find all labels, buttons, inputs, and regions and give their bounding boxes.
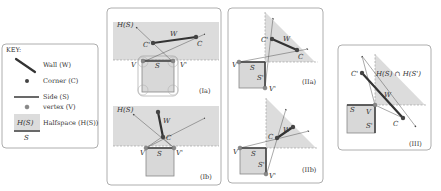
svg-text:S: S <box>251 150 256 158</box>
svg-text:S: S <box>24 134 29 142</box>
svg-text:W: W <box>384 91 392 99</box>
svg-text:C: C <box>197 40 203 48</box>
svg-text:V': V' <box>269 172 276 180</box>
svg-text:H(S) ∩ H(S'): H(S) ∩ H(S') <box>375 70 421 78</box>
tag-Ib: (Ib) <box>200 173 212 181</box>
key-title: KEY: <box>6 46 21 54</box>
svg-text:W: W <box>283 35 291 43</box>
svg-text:W: W <box>283 126 291 134</box>
key-label-side: Side (S) <box>43 93 70 101</box>
tag-III: (III) <box>409 140 422 148</box>
key-label-vertex: vertex (V) <box>42 103 76 111</box>
svg-text:C': C' <box>261 36 268 44</box>
svg-text:H(S): H(S) <box>116 106 134 114</box>
svg-text:W: W <box>170 30 178 38</box>
svg-text:V': V' <box>180 61 187 69</box>
svg-text:V': V' <box>269 85 276 93</box>
diagram: KEY: Wall (W) Corner (C) Side (S) vertex… <box>0 0 441 191</box>
key-legend: KEY: Wall (W) Corner (C) Side (S) vertex… <box>2 44 99 148</box>
svg-text:C: C <box>166 134 172 142</box>
svg-text:S': S' <box>366 122 373 130</box>
svg-text:S: S <box>157 150 162 158</box>
svg-text:S': S' <box>258 161 265 169</box>
svg-text:C: C <box>268 133 274 141</box>
svg-text:W: W <box>163 117 171 125</box>
svg-text:H(S): H(S) <box>116 21 134 29</box>
svg-text:S: S <box>155 62 160 70</box>
svg-text:V': V' <box>176 149 183 157</box>
key-label-corner: Corner (C) <box>43 77 79 85</box>
svg-text:S: S <box>250 64 255 72</box>
tag-IIa: (IIa) <box>302 78 317 86</box>
svg-text:S': S' <box>257 74 264 82</box>
key-label-wall: Wall (W) <box>43 61 71 69</box>
tag-Ia: (Ia) <box>199 87 211 95</box>
svg-text:C': C' <box>351 70 358 78</box>
corner-dot-icon <box>25 79 29 83</box>
vertex-dot-icon <box>25 105 29 109</box>
tag-IIb: (IIb) <box>302 166 317 174</box>
svg-text:H(S): H(S) <box>16 119 34 127</box>
svg-text:C': C' <box>143 41 150 49</box>
svg-text:C: C <box>298 53 304 61</box>
svg-text:S: S <box>350 106 355 114</box>
svg-text:C: C <box>393 120 399 128</box>
key-label-halfspace: Halfspace (H(S)) <box>43 119 99 127</box>
